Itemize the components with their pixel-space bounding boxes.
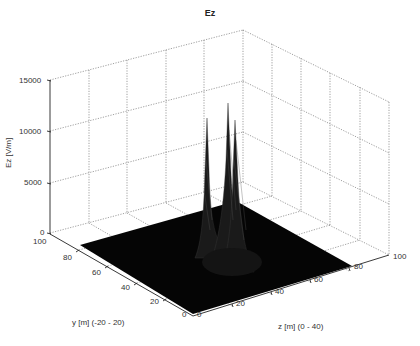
y-tick-60: 60 [92,268,101,277]
x-tick-40: 40 [275,287,284,296]
z-tick-15000: 15000 [19,76,41,85]
x-tick-100: 100 [393,252,406,261]
x-tick-80: 80 [354,262,363,271]
figure: Ez 15000 10000 5000 0 100 80 60 40 20 0 … [0,0,420,346]
x-axis-label: z [m] (0 - 40) [278,322,323,331]
y-tick-0: 0 [182,310,186,319]
y-tick-40: 40 [121,283,130,292]
z-tick-10000: 10000 [19,127,41,136]
chart-title: Ez [0,8,420,18]
z-tick-5000: 5000 [24,178,42,187]
x-tick-60: 60 [314,275,323,284]
x-tick-0: 0 [197,310,201,319]
x-tick-20: 20 [236,299,245,308]
z-axis-label: Ez [V/m] [4,138,13,168]
z-tick-0: 0 [40,228,44,237]
y-tick-100: 100 [33,237,46,246]
y-tick-80: 80 [63,253,72,262]
y-axis-label: y [m] (-20 - 20) [72,318,124,327]
y-tick-20: 20 [150,297,159,306]
plot-area [0,0,420,346]
